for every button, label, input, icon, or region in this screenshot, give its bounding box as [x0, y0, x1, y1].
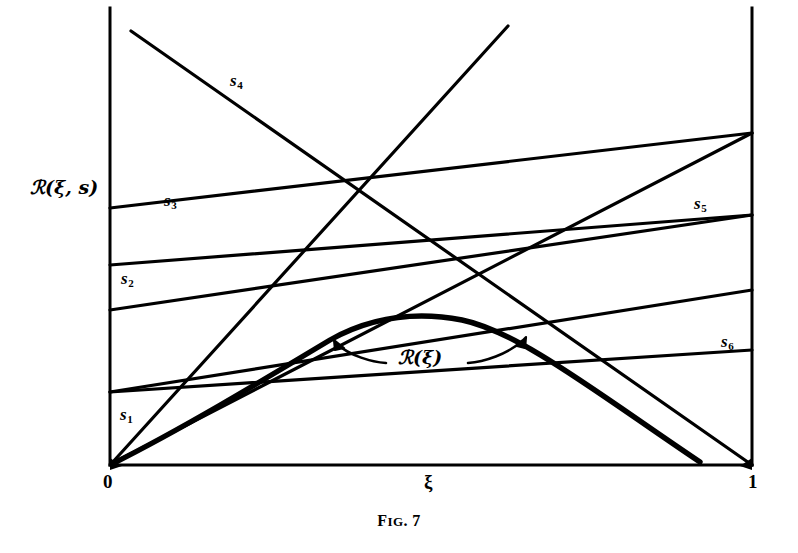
- envelope-curve: [112, 316, 700, 464]
- caption-prefix: F: [377, 512, 387, 529]
- ordinate-axis-label-text: ℛ(ξ, s): [30, 176, 98, 198]
- ordinate-axis-label: ℛ(ξ, s): [30, 178, 98, 197]
- line-s3: [110, 133, 752, 208]
- curve-label-s6: s6: [721, 333, 734, 352]
- line-s5b: [110, 290, 752, 392]
- envelope-label-text: ℛ(ξ): [398, 346, 442, 368]
- figure-container: ℛ(ξ, s) s1 s2 s3 s4 s5 s6 ℛ(ξ) 0 ξ 1 FIG…: [0, 0, 798, 553]
- figure-plot: [0, 0, 798, 553]
- line-family: [110, 26, 752, 465]
- x-tick-label-0: 0: [103, 472, 113, 491]
- curve-label-s4: s4: [230, 72, 243, 91]
- envelope-label: ℛ(ξ): [398, 348, 442, 367]
- figure-caption: FIG. 7: [0, 512, 798, 530]
- arrow-right-shaft: [468, 341, 522, 363]
- x-tick-label-1: 1: [748, 472, 758, 491]
- x-axis-label: ξ: [424, 472, 432, 491]
- caption-suffix: . 7: [403, 512, 420, 529]
- line-s1: [111, 26, 508, 464]
- curve-label-s1: s1: [120, 406, 133, 425]
- line-s2: [110, 215, 752, 265]
- curve-label-s3: s3: [164, 192, 177, 211]
- envelope-path: [112, 316, 700, 464]
- curve-label-s5: s5: [694, 195, 707, 214]
- line-s5: [110, 215, 752, 310]
- caption-smallcaps: IG: [388, 514, 404, 529]
- curve-label-s2: s2: [121, 270, 134, 289]
